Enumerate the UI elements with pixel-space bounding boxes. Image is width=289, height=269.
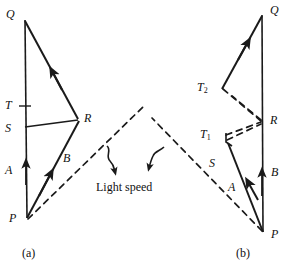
label-b-R: R xyxy=(270,114,277,126)
label-a-B: B xyxy=(63,152,70,164)
label-a-R: R xyxy=(84,112,91,124)
label-b-P: P xyxy=(271,228,278,240)
label-b-A: A xyxy=(228,181,235,193)
line-a-PR xyxy=(27,121,79,218)
label-b-Q: Q xyxy=(270,4,279,16)
squiggle-arrow-a xyxy=(107,146,115,172)
dashed-b-T1R-lower xyxy=(227,124,261,140)
caption-b: (b) xyxy=(236,246,250,261)
arrow-a-RQ xyxy=(52,71,62,90)
caption-a: (a) xyxy=(22,246,35,261)
line-a-QP xyxy=(25,20,27,218)
label-b-T1: T1 xyxy=(200,128,211,142)
figure-canvas xyxy=(0,0,289,269)
light-speed-annotation: Light speed xyxy=(96,180,152,195)
dashed-b-T1R-upper xyxy=(226,122,261,135)
label-b-T2-base: T xyxy=(197,80,204,94)
label-a-P: P xyxy=(9,212,16,224)
squiggle-arrow-b xyxy=(149,147,164,168)
label-b-T1-base: T xyxy=(200,127,207,141)
line-a-SR xyxy=(25,120,78,127)
line-a-RQ xyxy=(25,21,78,119)
label-a-T: T xyxy=(5,99,12,111)
physics-figure: Q T S R A B P Q T2 T1 R S A B P Light sp… xyxy=(0,0,289,269)
arrow-b-T2Q xyxy=(238,42,248,60)
label-a-Q: Q xyxy=(6,8,15,20)
label-b-T2: T2 xyxy=(197,81,208,95)
arrow-a-B xyxy=(39,173,51,196)
label-b-T1-sub: 1 xyxy=(207,133,211,142)
panel-b-graphics xyxy=(149,15,263,232)
label-a-S: S xyxy=(5,122,11,134)
label-b-B: B xyxy=(271,166,278,178)
line-b-QP xyxy=(262,15,263,232)
label-b-S: S xyxy=(209,157,215,169)
label-a-A: A xyxy=(5,164,12,176)
label-b-T2-sub: 2 xyxy=(204,86,208,95)
